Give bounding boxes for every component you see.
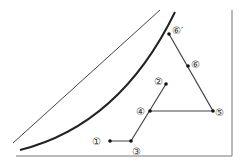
label-4: ④: [136, 106, 145, 117]
label-1: ①: [92, 136, 101, 147]
point-6prime: [167, 32, 171, 36]
point-1: [108, 139, 112, 143]
point-3: [129, 139, 133, 143]
point-2: [164, 82, 168, 86]
process-diagram: ① ② ③ ④ ⑤ ⑥ ⑥′: [0, 0, 243, 166]
point-4: [148, 109, 152, 113]
label-5: ⑤: [215, 107, 224, 118]
straight-boundary-line: [13, 10, 160, 143]
point-6: [186, 64, 190, 68]
label-6: ⑥: [191, 59, 200, 70]
label-2: ②: [154, 76, 163, 87]
path-4-5-6prime: [150, 34, 213, 111]
saturation-curve: [20, 12, 175, 150]
label-3: ③: [132, 146, 141, 157]
label-6prime: ⑥′: [172, 25, 184, 36]
